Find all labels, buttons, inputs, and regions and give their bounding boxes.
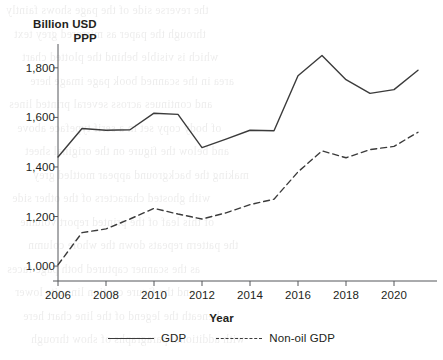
plot-area: [0, 0, 443, 360]
legend-item: Non-oil GDP: [216, 332, 335, 344]
data-series: [58, 55, 418, 264]
legend-label: Non-oil GDP: [269, 332, 335, 344]
series-line-non-oil-gdp: [58, 132, 418, 265]
axes: [53, 44, 437, 286]
line-chart: Billion USD PPP 1,0001,2001,4001,6001,80…: [0, 0, 443, 360]
legend-label: GDP: [161, 332, 186, 344]
legend-dashed-line-icon: [216, 338, 262, 339]
legend-solid-line-icon: [108, 338, 154, 339]
x-axis-title: Year: [0, 312, 443, 324]
series-line-gdp: [58, 55, 418, 157]
legend-item: GDP: [108, 332, 186, 344]
chart-legend: GDPNon-oil GDP: [0, 332, 443, 344]
